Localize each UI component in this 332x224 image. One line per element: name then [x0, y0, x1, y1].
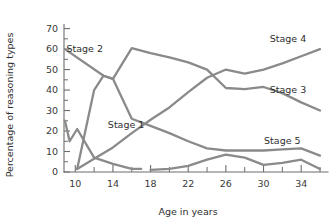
- y-tick-label: 20: [46, 125, 58, 136]
- y-tick-label: 30: [46, 105, 58, 116]
- x-tick-label: 26: [220, 178, 232, 189]
- series-label-stage-1: Stage 1: [108, 119, 145, 130]
- y-tick-label: 60: [46, 43, 58, 54]
- x-tick-label: 30: [257, 178, 269, 189]
- series-label-stage-4: Stage 4: [270, 33, 307, 44]
- series-labels-group: Stage 1Stage 2Stage 3Stage 4Stage 5: [66, 33, 306, 146]
- x-tick-label: 10: [69, 178, 81, 189]
- chart-canvas: 01020304050607010141822263034 Stage 1Sta…: [0, 0, 332, 224]
- x-axis-title: Age in years: [158, 206, 217, 217]
- series-label-stage-3: Stage 3: [270, 84, 307, 95]
- y-tick-label: 40: [46, 84, 58, 95]
- x-tick-label: 18: [145, 178, 157, 189]
- y-tick-label: 10: [46, 146, 58, 157]
- series-lines-group: [65, 48, 320, 170]
- series-line-stage-5: [151, 155, 320, 170]
- y-tick-label: 70: [46, 23, 58, 34]
- y-tick-label: 0: [52, 166, 58, 177]
- x-tick-label: 22: [182, 178, 194, 189]
- series-label-stage-5: Stage 5: [264, 135, 301, 146]
- series-label-stage-2: Stage 2: [66, 43, 103, 54]
- series-line-stage-3: [77, 48, 320, 169]
- y-tick-label: 50: [46, 64, 58, 75]
- x-tick-label: 34: [295, 178, 307, 189]
- line-chart: 01020304050607010141822263034 Stage 1Sta…: [0, 0, 332, 224]
- x-tick-label: 14: [107, 178, 119, 189]
- y-axis-title: Percentage of reasoning types: [4, 33, 15, 178]
